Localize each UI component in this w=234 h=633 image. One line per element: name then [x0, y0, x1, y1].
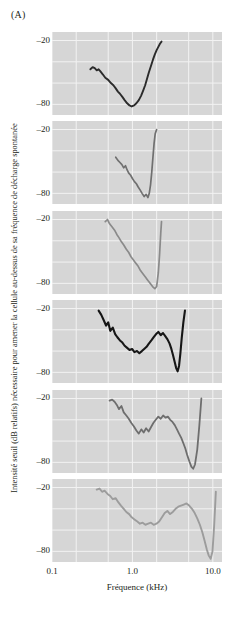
- y-axis-tick-label: –20: [4, 35, 50, 45]
- y-axis-tick-label: –20: [4, 124, 50, 134]
- y-axis-tick-label: –20: [4, 392, 50, 402]
- tuning-curve-trace: [99, 311, 185, 372]
- tuning-curve-panel: [52, 211, 222, 294]
- x-axis-tick-label: 0.1: [46, 566, 57, 576]
- tuning-curve-panel: [52, 479, 222, 562]
- y-axis-tick-label: –80: [4, 545, 50, 555]
- tuning-curve-panel: [52, 300, 222, 383]
- y-axis-tick-label: –20: [4, 303, 50, 313]
- y-axis-tick-label: –80: [4, 456, 50, 466]
- panel-stack: [52, 32, 222, 562]
- y-axis-tick-labels: –20–80–20–80–20–80–20–80–20–80–20–80: [0, 32, 50, 562]
- panel-label: (A): [11, 9, 25, 20]
- y-axis-tick-label: –20: [4, 482, 50, 492]
- y-axis-tick-label: –80: [4, 367, 50, 377]
- tuning-curve-trace: [116, 130, 157, 198]
- tuning-curve-panel: [52, 390, 222, 473]
- x-axis-tick-label: 10.0: [205, 566, 221, 576]
- y-axis-tick-label: –20: [4, 213, 50, 223]
- tuning-curve-trace: [90, 42, 161, 107]
- tuning-curve-panel: [52, 121, 222, 204]
- tuning-curve-trace: [110, 398, 202, 468]
- y-axis-tick-label: –80: [4, 98, 50, 108]
- x-axis-title: Fréquence (kHz): [52, 582, 222, 592]
- tuning-curve-panel: [52, 32, 222, 115]
- tuning-curve-trace: [105, 219, 161, 288]
- y-axis-tick-label: –80: [4, 277, 50, 287]
- x-axis-tick-label: 1.0: [127, 566, 138, 576]
- x-axis-tick-labels: 0.11.010.0: [52, 566, 222, 580]
- y-axis-tick-label: –80: [4, 188, 50, 198]
- figure-container: (A) Intensité seuil (dB relatifs) nécess…: [0, 0, 234, 633]
